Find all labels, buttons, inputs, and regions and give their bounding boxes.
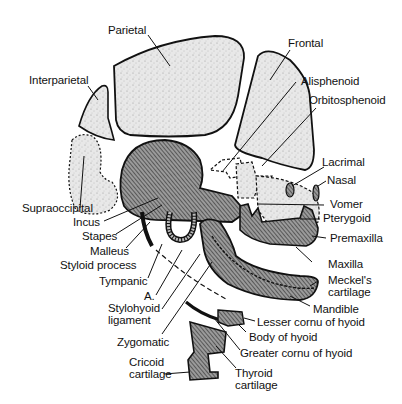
label-nasal: Nasal xyxy=(327,174,356,186)
label-cricoid-cartilage: Cricoid cartilage xyxy=(129,356,172,380)
label-zygomatic: Zygomatic xyxy=(117,336,169,348)
label-meckels-cartilage: Meckel's cartilage xyxy=(328,274,372,298)
label-thyroid-cartilage: Thyroid cartilage xyxy=(235,367,278,391)
label-orbitosphenoid: Orbitosphenoid xyxy=(309,94,386,106)
label-stylohyoid-ligament: Stylohyoid ligament xyxy=(108,302,160,326)
label-lesser-cornu: Lesser cornu of hyoid xyxy=(257,316,365,328)
interparietal-bone xyxy=(79,86,114,140)
label-pterygoid: Pterygoid xyxy=(323,212,371,224)
label-vomer: Vomer xyxy=(330,198,363,210)
label-body-of-hyoid: Body of hyoid xyxy=(249,331,317,343)
label-tympanic: Tympanic xyxy=(99,275,147,287)
label-malleus: Malleus xyxy=(90,245,129,257)
label-lacrimal: Lacrimal xyxy=(322,156,365,168)
label-mandible: Mandible xyxy=(313,303,359,315)
label-interparietal: Interparietal xyxy=(29,74,88,86)
label-styloid-process: Styloid process xyxy=(60,259,136,271)
label-alisphenoid: Alisphenoid xyxy=(301,75,359,87)
label-stapes: Stapes xyxy=(82,230,117,242)
otic-capsule xyxy=(120,140,246,222)
label-greater-cornu: Greater cornu of hyoid xyxy=(240,347,352,359)
nasal-bone xyxy=(313,185,319,201)
label-incus: Incus xyxy=(73,216,100,228)
lesser-cornu-of-hyoid xyxy=(186,302,220,320)
parietal-bone xyxy=(114,36,244,137)
label-a: A. xyxy=(144,290,155,302)
label-supraoccipital: Supraoccipital xyxy=(22,202,93,214)
label-maxilla: Maxilla xyxy=(328,258,363,270)
label-frontal: Frontal xyxy=(288,37,323,49)
label-parietal: Parietal xyxy=(108,24,146,36)
body-of-hyoid xyxy=(218,310,244,326)
label-premaxilla: Premaxilla xyxy=(330,232,383,244)
